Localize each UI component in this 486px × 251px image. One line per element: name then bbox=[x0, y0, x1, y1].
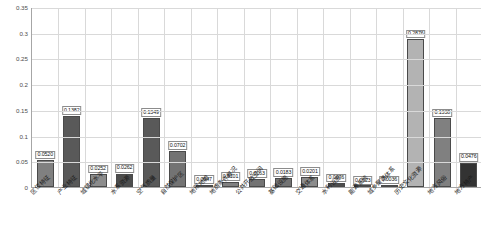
y-axis-tick-label: 0.2 bbox=[19, 82, 28, 88]
gridline-vertical bbox=[58, 8, 59, 187]
gridline-horizontal bbox=[32, 59, 481, 60]
gridline-vertical bbox=[164, 8, 165, 187]
bar-group[interactable]: 0.0101 bbox=[217, 8, 243, 187]
gridline-vertical bbox=[297, 8, 298, 187]
x-axis-labels: 区位特征产业特征城镇化水平水系资源空气质量自然保护区地形地貌地质条件概况公共开放… bbox=[31, 189, 481, 251]
gridline-vertical bbox=[456, 8, 457, 187]
gridline-vertical bbox=[323, 8, 324, 187]
gridline-vertical bbox=[191, 8, 192, 187]
gridline-vertical bbox=[244, 8, 245, 187]
y-axis-tick-label: 0.3 bbox=[19, 31, 28, 37]
gridline-horizontal bbox=[32, 111, 481, 112]
bar-group[interactable]: 0.0163 bbox=[244, 8, 270, 187]
y-axis-tick-label: 0.25 bbox=[16, 56, 28, 62]
bar-group[interactable]: 0.1382 bbox=[58, 8, 84, 187]
y-axis-tick-label: 0 bbox=[25, 185, 28, 191]
bar-value-label: 0.0476 bbox=[459, 153, 479, 162]
y-axis: 00.050.10.150.20.250.30.35 bbox=[0, 0, 31, 251]
y-axis-tick-label: 0.15 bbox=[16, 108, 28, 114]
gridline-vertical bbox=[403, 8, 404, 187]
bar-group[interactable]: 0.0520 bbox=[32, 8, 58, 187]
bar-group[interactable]: 0.0476 bbox=[456, 8, 482, 187]
plot-area: 0.05200.13820.02520.02620.13490.07020.00… bbox=[31, 8, 481, 188]
bar-group[interactable]: 0.0201 bbox=[297, 8, 323, 187]
gridline-vertical bbox=[111, 8, 112, 187]
gridline-horizontal bbox=[32, 85, 481, 86]
bar-value-label: 0.0702 bbox=[168, 141, 188, 150]
bar-group[interactable]: 0.0047 bbox=[191, 8, 217, 187]
gridline-vertical bbox=[138, 8, 139, 187]
bar-value-label: 0.0262 bbox=[115, 164, 135, 173]
y-axis-tick-label: 0.35 bbox=[16, 5, 28, 11]
bar[interactable] bbox=[407, 39, 424, 187]
gridline-horizontal bbox=[32, 34, 481, 35]
gridline-horizontal bbox=[32, 137, 481, 138]
gridline-vertical bbox=[85, 8, 86, 187]
gridline-vertical bbox=[217, 8, 218, 187]
bar-group[interactable]: 0.0252 bbox=[85, 8, 111, 187]
gridline-horizontal bbox=[32, 162, 481, 163]
gridline-horizontal bbox=[32, 8, 481, 9]
bar-group[interactable]: 0.1338 bbox=[429, 8, 455, 187]
bar-group[interactable]: 0.0262 bbox=[111, 8, 137, 187]
y-axis-tick-label: 0.1 bbox=[19, 133, 28, 139]
bar-series: 0.05200.13820.02520.02620.13490.07020.00… bbox=[32, 8, 481, 187]
gridline-vertical bbox=[270, 8, 271, 187]
bar-value-label: 0.1349 bbox=[141, 108, 161, 117]
bar-chart: 00.050.10.150.20.250.30.35 0.05200.13820… bbox=[0, 0, 486, 251]
bar-group[interactable]: 0.0702 bbox=[164, 8, 190, 187]
bar-group[interactable]: 0.1349 bbox=[138, 8, 164, 187]
bar-group[interactable]: 0.2876 bbox=[403, 8, 429, 187]
gridline-vertical bbox=[350, 8, 351, 187]
bar-value-label: 0.0520 bbox=[35, 151, 55, 160]
y-axis-tick-label: 0.05 bbox=[16, 159, 28, 165]
bar-group[interactable]: 0.0183 bbox=[270, 8, 296, 187]
gridline-vertical bbox=[429, 8, 430, 187]
bar-group[interactable]: 0.0076 bbox=[323, 8, 349, 187]
bar-group[interactable]: 0.0036 bbox=[376, 8, 402, 187]
gridline-vertical bbox=[376, 8, 377, 187]
bar-group[interactable]: 0.0023 bbox=[350, 8, 376, 187]
